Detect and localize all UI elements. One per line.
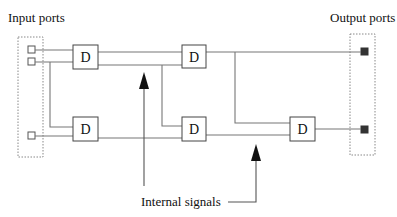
arrow-up-icon <box>139 72 149 89</box>
d-block-3-label: D <box>80 122 90 137</box>
d-block-4-label: D <box>189 122 199 137</box>
d-block-1-label: D <box>80 50 90 65</box>
arrow-2-shaft <box>228 158 256 202</box>
output-port-2 <box>361 126 368 133</box>
wire-in2-d3 <box>50 62 73 127</box>
wire-d2-d5 <box>235 52 290 123</box>
input-ports-label: Input ports <box>8 10 65 25</box>
register-diagram: Input ports Output ports D <box>0 0 397 217</box>
d-block-5-label: D <box>297 122 307 137</box>
d-block-3: D <box>73 117 98 141</box>
output-port-1 <box>361 48 368 55</box>
internal-signals-label: Internal signals <box>141 194 221 209</box>
arrow-internal-signal-2 <box>228 144 261 202</box>
input-port-3 <box>28 132 35 139</box>
output-ports-label: Output ports <box>330 10 395 25</box>
arrow-up-icon <box>251 144 261 161</box>
d-block-5: D <box>290 117 315 141</box>
d-block-2: D <box>182 45 206 68</box>
input-port-1 <box>28 46 35 53</box>
d-block-2-label: D <box>189 50 199 65</box>
arrow-internal-signal-1 <box>139 72 149 186</box>
wire-d1-d4 <box>162 65 182 126</box>
input-port-2 <box>28 58 35 65</box>
d-block-1: D <box>73 45 98 69</box>
d-block-4: D <box>182 117 206 141</box>
